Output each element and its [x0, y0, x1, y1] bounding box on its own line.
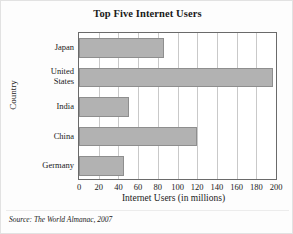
y-axis-tick-labels: JapanUnitedStatesIndiaChinaGermany [1, 32, 78, 180]
x-tick-label: 160 [230, 182, 243, 192]
x-tick-label: 120 [191, 182, 204, 192]
y-tick-label: India [4, 101, 78, 111]
y-tick-label: China [4, 131, 78, 141]
footer-divider [6, 210, 289, 211]
gridline [256, 33, 257, 179]
x-axis-title: Internet Users (in millions) [61, 193, 286, 203]
x-tick-label: 100 [171, 182, 184, 192]
bar [79, 38, 164, 58]
x-tick-label: 80 [154, 182, 163, 192]
bar [79, 97, 129, 117]
plot-area [78, 32, 277, 180]
gridline [276, 33, 277, 179]
chart-figure: Top Five Internet Users Country JapanUni… [0, 0, 293, 234]
gridline [178, 33, 179, 179]
y-tick-label: Japan [4, 42, 78, 52]
x-tick-label: 40 [114, 182, 123, 192]
x-tick-label: 140 [211, 182, 224, 192]
x-tick-label: 200 [270, 182, 283, 192]
bar [79, 127, 197, 147]
gridline [237, 33, 238, 179]
bar [79, 68, 273, 88]
x-tick-label: 60 [134, 182, 143, 192]
gridline [217, 33, 218, 179]
chart-title: Top Five Internet Users [1, 8, 293, 19]
x-tick-label: 180 [250, 182, 263, 192]
source-note: Source: The World Almanac, 2007 [9, 215, 112, 224]
bar [79, 156, 124, 176]
x-tick-label: 0 [77, 182, 81, 192]
x-tick-label: 20 [94, 182, 103, 192]
gridline [197, 33, 198, 179]
y-tick-label: Germany [4, 160, 78, 170]
y-tick-label: UnitedStates [4, 66, 78, 86]
